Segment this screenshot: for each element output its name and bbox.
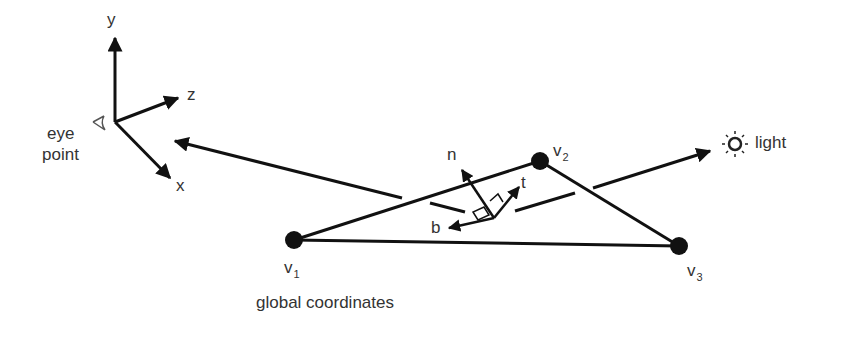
binormal-arrow (449, 218, 494, 228)
caption: global coordinates (256, 294, 394, 311)
z-axis-label: z (187, 86, 196, 103)
light-label: light (755, 134, 786, 151)
edge-v1-v2 (294, 161, 540, 240)
vertex-v2-label: v2 (553, 142, 569, 159)
x-axis-arrow (115, 122, 170, 178)
y-axis-label: y (107, 11, 116, 28)
binormal-label: b (431, 219, 440, 236)
global-axes (115, 38, 178, 178)
x-axis-label: x (176, 177, 185, 194)
sun-icon (722, 131, 748, 157)
tangent-arrow (494, 187, 519, 218)
vertex-v1-dot (285, 231, 303, 249)
edge-v1-v3 (294, 240, 679, 246)
eye-label-line2: point (42, 146, 79, 163)
vertex-v3-dot (670, 237, 688, 255)
eye-icon (93, 116, 105, 130)
view-vector-arrow (175, 141, 465, 212)
edge-v2-v3 (540, 161, 679, 246)
diagram-canvas (0, 0, 842, 339)
vertex-v1-label: v1 (284, 259, 300, 276)
z-axis-arrow (115, 98, 178, 122)
vertex-v3-label: v3 (687, 262, 703, 279)
eye-label-line1: eye (47, 125, 74, 142)
vertex-v2-dot (531, 152, 549, 170)
normal-label: n (447, 146, 456, 163)
tangent-label: t (521, 174, 526, 191)
triangle (294, 161, 679, 246)
